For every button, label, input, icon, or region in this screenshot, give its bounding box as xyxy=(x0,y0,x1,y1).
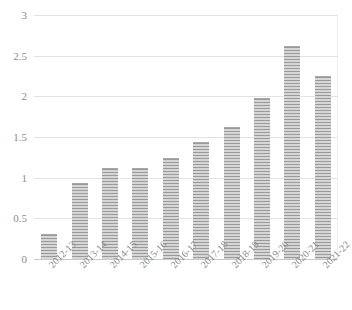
x-axis-slot: 2020-21 xyxy=(277,261,307,309)
x-axis-slot: 2012-13 xyxy=(34,261,64,309)
bar-series xyxy=(34,15,338,259)
x-axis-slot: 2018-19 xyxy=(216,261,246,309)
y-axis-tick-label-1: 1 xyxy=(22,172,28,183)
y-axis-tick-label-2: 2 xyxy=(22,91,28,102)
bar-slot xyxy=(247,15,277,259)
x-axis-slot: 2015-16 xyxy=(125,261,155,309)
bar-slot xyxy=(156,15,186,259)
bar-slot xyxy=(308,15,338,259)
y-axis-tick-label-2-5: 2.5 xyxy=(13,50,27,61)
bar-slot xyxy=(216,15,246,259)
x-axis-slot: 2013-14 xyxy=(64,261,94,309)
x-axis-slot: 2014-15 xyxy=(95,261,125,309)
x-axis-labels: 2012-13 2013-14 2014-15 2015-16 2016-17 … xyxy=(34,261,338,309)
bar-slot xyxy=(64,15,94,259)
y-axis-tick-label-1-5: 1.5 xyxy=(13,132,27,143)
x-axis-slot: 2016-17 xyxy=(156,261,186,309)
bar-slot xyxy=(277,15,307,259)
bar[interactable] xyxy=(315,76,331,259)
x-axis-slot: 2021-22 xyxy=(308,261,338,309)
y-axis-tick-label-0: 0 xyxy=(22,254,28,265)
bar-slot xyxy=(186,15,216,259)
bar[interactable] xyxy=(284,46,300,259)
bar[interactable] xyxy=(193,142,209,259)
bar[interactable] xyxy=(254,98,270,259)
y-axis-tick-label-0-5: 0.5 xyxy=(13,213,27,224)
x-axis-slot: 2017-18 xyxy=(186,261,216,309)
bar-slot xyxy=(95,15,125,259)
bar-slot xyxy=(125,15,155,259)
bar-slot xyxy=(34,15,64,259)
plot-area: 3 2.5 2 1.5 1 0.5 0 xyxy=(34,15,338,259)
bar[interactable] xyxy=(224,127,240,259)
y-axis-tick-label-3: 3 xyxy=(22,10,28,21)
x-axis-slot: 2019-20 xyxy=(247,261,277,309)
